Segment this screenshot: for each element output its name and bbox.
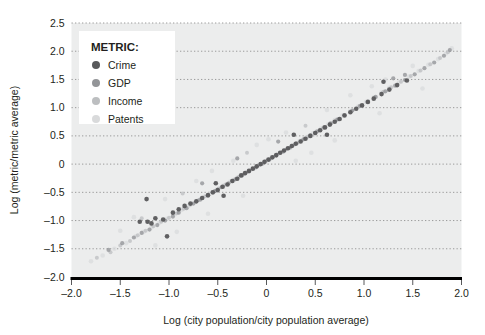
legend-marker-income — [92, 97, 100, 105]
data-point — [438, 56, 442, 60]
data-point — [89, 259, 94, 264]
data-point — [124, 241, 129, 246]
data-point — [132, 235, 136, 239]
data-point — [276, 139, 280, 143]
data-point — [325, 132, 330, 137]
data-point — [215, 188, 220, 193]
data-point — [405, 78, 410, 83]
data-point — [210, 169, 215, 174]
y-tick-label: –2.0 — [44, 271, 65, 283]
data-point — [278, 151, 283, 156]
data-point — [313, 131, 318, 136]
data-point — [325, 108, 330, 113]
data-point — [270, 155, 275, 160]
data-point — [214, 181, 219, 186]
data-point — [370, 84, 375, 89]
data-point — [293, 158, 298, 163]
data-point — [399, 80, 403, 84]
legend-marker-gdp — [92, 79, 100, 87]
data-point — [323, 125, 328, 130]
data-point — [395, 83, 400, 88]
x-tick-label: 1.5 — [405, 287, 420, 299]
y-tick-label: 0 — [59, 158, 65, 170]
data-point — [200, 181, 204, 185]
data-point — [165, 234, 170, 239]
data-point — [235, 156, 239, 160]
chart-canvas: –2.0–1.5–1.0–0.500.51.01.52.0 2.52.01.51… — [0, 0, 485, 335]
chart-legend: METRIC:CrimeGDPIncomePatents — [79, 31, 175, 125]
data-point — [290, 144, 295, 149]
data-point — [171, 210, 176, 215]
data-point — [258, 162, 263, 167]
data-point — [247, 169, 252, 174]
legend-label-patents[interactable]: Patents — [108, 113, 144, 125]
y-tick-label: 0.5 — [50, 129, 65, 141]
data-point — [428, 62, 432, 66]
data-point — [118, 228, 123, 233]
data-point — [409, 74, 413, 78]
data-point — [211, 190, 216, 195]
data-point — [286, 146, 291, 151]
data-point — [251, 166, 256, 171]
data-point — [171, 215, 175, 219]
x-tick-label: 0.5 — [308, 287, 323, 299]
data-point — [366, 100, 371, 105]
data-point — [282, 148, 287, 153]
legend-label-income[interactable]: Income — [108, 95, 143, 107]
legend-marker-crime — [92, 61, 100, 69]
data-point — [149, 221, 154, 226]
y-tick-label: –1.0 — [44, 214, 65, 226]
data-point — [318, 128, 323, 133]
data-point — [200, 196, 205, 201]
data-point — [239, 173, 244, 178]
data-point — [419, 68, 423, 72]
data-point — [225, 182, 230, 187]
data-point — [292, 132, 297, 137]
data-point — [262, 160, 267, 165]
data-point — [112, 246, 117, 251]
data-point — [442, 54, 446, 58]
legend-label-crime[interactable]: Crime — [108, 59, 136, 71]
scatter-chart-figure: –2.0–1.5–1.0–0.500.51.01.52.0 2.52.01.51… — [0, 0, 485, 335]
data-point — [332, 138, 337, 143]
data-point — [221, 193, 226, 198]
data-point — [403, 73, 407, 77]
data-point — [304, 124, 308, 128]
x-tick-label: –2.0 — [61, 287, 82, 299]
data-point — [413, 72, 417, 76]
data-point — [140, 231, 144, 235]
data-point — [377, 111, 382, 116]
data-point — [293, 141, 298, 146]
y-tick-label: –0.5 — [44, 186, 65, 198]
data-point — [387, 87, 392, 92]
data-point — [241, 193, 246, 198]
data-point — [360, 103, 365, 108]
data-point — [194, 199, 199, 204]
data-point — [194, 179, 199, 184]
x-tick-label: 2.0 — [454, 287, 469, 299]
data-point — [410, 64, 415, 69]
data-point — [128, 239, 132, 243]
y-tick-label: –1.5 — [44, 242, 65, 254]
legend-title: METRIC: — [91, 41, 139, 53]
data-point — [284, 130, 289, 135]
data-point — [332, 119, 337, 124]
data-point — [348, 93, 353, 98]
data-point — [342, 113, 347, 118]
data-point — [243, 171, 248, 176]
data-point — [144, 197, 149, 202]
data-point — [106, 248, 110, 252]
data-point — [95, 256, 99, 260]
data-point — [220, 184, 225, 189]
legend-label-gdp[interactable]: GDP — [108, 77, 131, 89]
x-tick-label: 0 — [264, 287, 270, 299]
data-point — [163, 197, 168, 202]
data-point — [298, 139, 303, 144]
x-tick-label: 1.0 — [357, 287, 372, 299]
legend-marker-patents — [92, 115, 100, 123]
data-point — [308, 134, 313, 139]
x-tick-label: –1.5 — [110, 287, 131, 299]
data-point — [266, 137, 271, 142]
data-point — [254, 143, 259, 148]
data-point — [206, 193, 211, 198]
